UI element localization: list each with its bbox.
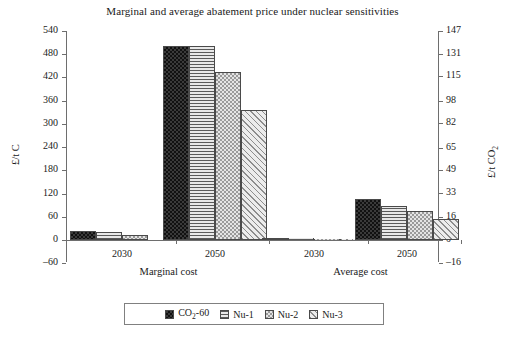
left-tick [62,217,66,218]
left-tick-label: 420 [0,70,58,81]
legend-label: CO2-60 [178,307,209,321]
bar-nu-2-2030-average [314,239,340,240]
left-tick [62,263,66,264]
bar-co2-60-2050-average [355,199,381,240]
chart-container: Marginal and average abatement price und… [0,0,505,337]
right-tick-label: 131 [446,47,486,58]
left-tick [62,101,66,102]
left-tick [62,77,66,78]
legend-item[interactable]: CO2-60 [165,307,209,321]
legend-swatch-nu-2-icon [265,310,274,319]
right-tick-label: –16 [446,256,486,267]
left-axis-line [66,31,67,262]
legend-item[interactable]: Nu-3 [309,309,343,320]
zero-baseline [66,240,439,241]
left-tick-label: 300 [0,117,58,128]
right-tick [439,193,443,194]
legend-label: Nu-3 [322,309,343,320]
legend-label: Nu-1 [233,309,254,320]
right-tick-label: 147 [446,24,486,35]
left-tick-label: 240 [0,140,58,151]
right-tick [439,170,443,171]
right-tick [439,101,443,102]
bar-nu-1-2050-average [381,206,407,240]
legend-swatch-nu-3-icon [309,310,318,319]
bar-nu-3-2050-marginal [241,110,267,240]
right-tick [439,240,443,241]
legend-item[interactable]: Nu-1 [220,309,254,320]
bar-nu-1-2030-average [288,238,314,240]
right-tick [439,123,443,124]
right-tick [439,148,443,149]
left-tick [62,147,66,148]
x-tick-label: 2050 [185,248,245,259]
bar-co2-60-2030-average [262,238,288,240]
bar-co2-60-2050-marginal [163,46,189,240]
right-tick [439,54,443,55]
x-tick-label: 2030 [284,248,344,259]
left-tick [62,124,66,125]
right-tick-label: 82 [446,116,486,127]
left-tick-label: 120 [0,187,58,198]
left-tick [62,194,66,195]
right-tick-label: 65 [446,141,486,152]
left-tick [62,240,66,241]
bar-nu-1-2050-marginal [189,46,215,240]
x-tick [461,240,462,244]
right-tick-label: 33 [446,186,486,197]
group-label: Marginal cost [109,266,229,277]
left-axis-title: £/t C [10,144,21,165]
bar-nu-2-2030-marginal [122,235,148,240]
right-tick [439,263,443,264]
bar-nu-1-2030-marginal [96,232,122,240]
bar-co2-60-2030-marginal [70,231,96,240]
chart-title: Marginal and average abatement price und… [0,5,505,17]
x-tick-label: 2030 [92,248,152,259]
bar-nu-3-2050-average [433,219,459,240]
left-tick [62,31,66,32]
right-tick-label: 98 [446,94,486,105]
right-tick-label: 49 [446,163,486,174]
left-tick [62,170,66,171]
left-tick-label: 0 [0,233,58,244]
left-tick-label: –60 [0,256,58,267]
x-tick [269,240,270,244]
left-tick-label: 540 [0,24,58,35]
left-tick-label: 480 [0,47,58,58]
legend-swatch-nu-1-icon [220,310,229,319]
x-tick [368,240,369,244]
left-tick-label: 180 [0,163,58,174]
legend-label: Nu-2 [278,309,299,320]
left-tick [62,54,66,55]
group-label: Average cost [301,266,421,277]
x-tick [176,240,177,244]
left-tick-label: 60 [0,210,58,221]
right-tick [439,76,443,77]
chart-legend: CO2-60 Nu-1 Nu-2 Nu-3 [124,303,384,325]
right-axis-title: £/t CO2 [486,146,500,178]
legend-swatch-co2-60-icon [165,310,174,319]
left-tick-label: 360 [0,94,58,105]
bar-nu-2-2050-marginal [215,72,241,240]
right-tick-label: 115 [446,69,486,80]
x-tick-label: 2050 [377,248,437,259]
legend-item[interactable]: Nu-2 [265,309,299,320]
right-tick [439,31,443,32]
bar-nu-2-2050-average [407,211,433,240]
